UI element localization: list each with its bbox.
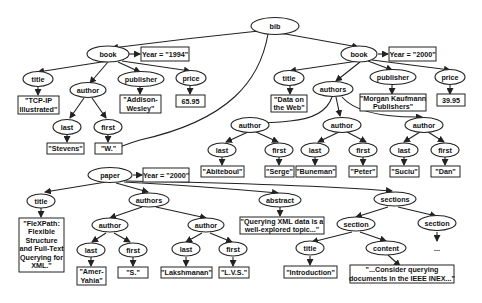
node-book1-publisher: publisher xyxy=(118,72,164,87)
svg-text:"L.V.S.": "L.V.S." xyxy=(221,268,247,277)
svg-text:last: last xyxy=(216,146,229,155)
svg-text:first: first xyxy=(356,146,370,155)
node-author1-first: first xyxy=(265,143,293,157)
node-book2-author-3: author xyxy=(405,118,443,133)
node-book-2000: book xyxy=(341,46,377,62)
node-section1-content: content xyxy=(366,241,406,255)
svg-text:title: title xyxy=(304,244,317,253)
svg-text:author: author xyxy=(99,221,122,230)
svg-text:author: author xyxy=(77,86,100,95)
value-flexpath-title: "FleXPath: Flexible Structure and Full-T… xyxy=(19,218,64,272)
svg-text:Yahia": Yahia" xyxy=(80,276,102,285)
value-abstract: "Querying XML data is a well-explored to… xyxy=(240,217,324,234)
attr-year-1994: Year = "1994" xyxy=(141,47,189,61)
value-dan: "Dan" xyxy=(431,166,460,177)
value-book1-title: "TCP-IP Illustrated" xyxy=(18,96,59,114)
svg-text:"S.": "S." xyxy=(126,268,140,277)
svg-text:Year = "2000": Year = "2000" xyxy=(389,50,435,59)
node-book2-author-1: author xyxy=(231,118,269,133)
svg-text:sections: sections xyxy=(380,195,409,204)
svg-text:well-explored topic...": well-explored topic..." xyxy=(244,225,320,234)
svg-text:publisher: publisher xyxy=(377,73,410,82)
svg-text:first: first xyxy=(438,146,452,155)
value-abiteboul: "Abiteboul" xyxy=(201,166,244,177)
node-author2-first: first xyxy=(349,143,377,157)
svg-text:content: content xyxy=(373,244,400,253)
svg-text:last: last xyxy=(180,245,193,254)
value-price-39-95: 39.95 xyxy=(437,94,465,106)
svg-text:title: title xyxy=(283,74,296,83)
svg-text:first: first xyxy=(272,146,286,155)
svg-text:author: author xyxy=(331,121,354,130)
value-s: "S." xyxy=(118,267,148,278)
svg-text:"Stevens": "Stevens" xyxy=(48,144,82,153)
node-paper-author1-last: last xyxy=(77,243,105,257)
node-book2-publisher: publisher xyxy=(370,70,416,85)
node-book2-title: title xyxy=(274,71,304,86)
svg-text:65.95: 65.95 xyxy=(182,97,200,106)
svg-text:price: price xyxy=(441,73,458,82)
node-book2-authors: authors xyxy=(313,82,353,97)
node-section-2: section xyxy=(418,216,456,231)
node-book-1994: book xyxy=(87,46,129,62)
node-paper-author-1: author xyxy=(92,218,128,232)
svg-text:Year = "1994": Year = "1994" xyxy=(142,50,188,59)
svg-text:section: section xyxy=(424,219,449,228)
svg-text:"Introduction": "Introduction" xyxy=(286,268,335,277)
xml-tree-diagram: bib book Year = "1994" title "TCP-IP Ill… xyxy=(0,0,482,303)
node-section-1: section xyxy=(337,217,375,231)
svg-text:39.95: 39.95 xyxy=(442,96,460,105)
value-peter: "Peter" xyxy=(349,166,377,177)
svg-text:author: author xyxy=(413,121,436,130)
attr-year-2000-book: Year = "2000" xyxy=(389,47,436,61)
svg-text:Publishers": Publishers" xyxy=(373,102,413,111)
svg-text:"Suciu": "Suciu" xyxy=(391,167,417,176)
svg-text:book: book xyxy=(99,50,116,59)
svg-text:Illustrated": Illustrated" xyxy=(20,105,58,114)
svg-text:"Dan": "Dan" xyxy=(435,167,455,176)
value-w: "W." xyxy=(95,143,122,154)
node-author2-last: last xyxy=(301,143,329,157)
svg-text:documents in the IEEE INEX...": documents in the IEEE INEX..." xyxy=(349,274,455,283)
svg-text:last: last xyxy=(398,146,411,155)
value-suciu: "Suciu" xyxy=(390,166,419,177)
svg-text:last: last xyxy=(85,246,98,255)
svg-text:authors: authors xyxy=(320,85,346,94)
svg-text:"Buneman": "Buneman" xyxy=(296,167,336,176)
node-book1-author-first: first xyxy=(94,120,122,135)
svg-text:first: first xyxy=(126,246,140,255)
value-lvs: "L.V.S." xyxy=(219,267,249,278)
node-book1-price: price xyxy=(176,71,206,86)
svg-text:section: section xyxy=(343,220,368,229)
svg-text:first: first xyxy=(101,123,115,132)
svg-text:last: last xyxy=(61,123,74,132)
svg-text:authors: authors xyxy=(136,196,162,205)
node-paper-author2-last: last xyxy=(172,242,200,256)
svg-text:abstract: abstract xyxy=(266,196,295,205)
value-buneman: "Buneman" xyxy=(296,166,336,177)
node-book1-author: author xyxy=(70,83,106,98)
svg-text:Year = "2000": Year = "2000" xyxy=(143,171,189,180)
node-paper-author-2: author xyxy=(188,218,224,232)
value-addison-wesley: "Addison- Wesley" xyxy=(120,95,161,113)
svg-text:Wesley": Wesley" xyxy=(126,104,154,113)
value-introduction: "Introduction" xyxy=(284,266,337,278)
svg-text:author: author xyxy=(195,221,218,230)
svg-text:"Abiteboul": "Abiteboul" xyxy=(203,167,243,176)
svg-text:title: title xyxy=(35,197,48,206)
svg-text:"W.": "W." xyxy=(101,144,116,153)
value-data-on-the-web: "Data on the Web" xyxy=(271,95,307,113)
node-bib: bib xyxy=(251,18,299,35)
node-section1-title: title xyxy=(296,241,324,255)
svg-text:"Peter": "Peter" xyxy=(351,167,376,176)
value-content: "...Consider querying documents in the I… xyxy=(349,265,455,283)
svg-text:"Serge": "Serge" xyxy=(266,167,293,176)
svg-text:last: last xyxy=(309,146,322,155)
section2-ellipsis: ... xyxy=(434,244,440,253)
svg-text:"Lakshmanan": "Lakshmanan" xyxy=(161,268,212,277)
svg-text:bib: bib xyxy=(270,22,281,31)
node-paper-author2-first: first xyxy=(219,242,247,256)
value-serge: "Serge" xyxy=(265,166,294,177)
node-book2-author-2: author xyxy=(323,118,361,133)
value-lakshmanan: "Lakshmanan" xyxy=(161,267,212,278)
